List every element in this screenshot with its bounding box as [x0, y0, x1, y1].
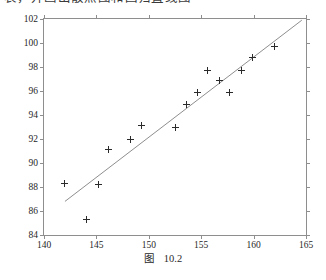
y-tick-right	[306, 115, 310, 116]
x-tick	[254, 235, 255, 239]
x-tick-label: 140	[37, 240, 51, 250]
y-tick	[40, 19, 44, 20]
y-tick	[40, 163, 44, 164]
plot-frame: 8486889092949698100102 14014515015516016…	[43, 18, 307, 236]
x-tick-top	[149, 15, 150, 19]
y-tick-label: 88	[29, 182, 39, 192]
caption-word: 图	[144, 253, 154, 264]
y-tick	[40, 139, 44, 140]
x-tick-top	[306, 15, 307, 19]
x-tick	[44, 235, 45, 239]
y-tick-right	[306, 67, 310, 68]
y-tick	[40, 187, 44, 188]
scatter-point	[172, 124, 179, 131]
scatter-point	[204, 67, 211, 74]
scatter-point	[105, 146, 112, 153]
x-tick-label: 160	[246, 240, 260, 250]
y-tick-label: 84	[29, 230, 39, 240]
scatter-point	[95, 181, 102, 188]
y-tick-label: 90	[29, 158, 39, 168]
y-tick	[40, 67, 44, 68]
y-tick-label: 102	[24, 14, 38, 24]
x-tick-top	[96, 15, 97, 19]
scatter-point	[138, 122, 145, 129]
y-tick-label: 86	[29, 206, 39, 216]
y-tick-right	[306, 139, 310, 140]
x-tick	[149, 235, 150, 239]
figure-caption: 图10.2	[0, 252, 326, 265]
scatter-point	[238, 67, 245, 74]
y-tick-right	[306, 91, 310, 92]
scatter-point	[226, 89, 233, 96]
x-tick-label: 150	[142, 240, 156, 250]
y-tick-label: 94	[29, 110, 39, 120]
scatter-point	[216, 77, 223, 84]
scatter-point	[249, 54, 256, 61]
x-tick-top	[201, 15, 202, 19]
scatter-point	[183, 101, 190, 108]
x-tick-label: 155	[194, 240, 208, 250]
x-tick	[96, 235, 97, 239]
scatter-point	[83, 216, 90, 223]
y-tick-label: 96	[29, 86, 39, 96]
x-tick	[201, 235, 202, 239]
y-tick-right	[306, 163, 310, 164]
y-tick-label: 92	[29, 134, 39, 144]
x-tick-label: 145	[89, 240, 103, 250]
y-tick	[40, 43, 44, 44]
x-tick	[306, 235, 307, 239]
y-tick	[40, 211, 44, 212]
y-tick-right	[306, 19, 310, 20]
y-tick-label: 98	[29, 62, 39, 72]
y-tick-right	[306, 211, 310, 212]
scatter-point	[271, 43, 278, 50]
y-tick	[40, 91, 44, 92]
x-tick-top	[44, 15, 45, 19]
y-tick-label: 100	[24, 38, 38, 48]
regression-line	[65, 20, 302, 201]
y-tick	[40, 115, 44, 116]
scatter-point	[194, 89, 201, 96]
y-tick-right	[306, 43, 310, 44]
scatter-point	[61, 180, 68, 187]
figure-10-2: 8486889092949698100102 14014515015516016…	[0, 0, 326, 280]
y-tick-right	[306, 187, 310, 188]
scatter-point	[127, 136, 134, 143]
x-tick-top	[254, 15, 255, 19]
caption-number: 10.2	[164, 253, 182, 264]
x-tick-label: 165	[299, 240, 313, 250]
